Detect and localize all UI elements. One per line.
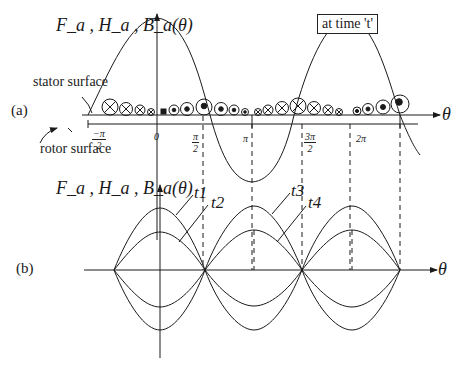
tick-3pi-half: 3π2 [304,131,316,154]
dot-conductor-icon [363,104,374,115]
curve-t3 [114,270,400,307]
theta-label-b: θ [438,259,447,280]
tick-zero: 0 [154,131,159,142]
time-box: at time 't' [317,14,378,34]
tick-2pi: 2π [356,133,366,144]
dot-conductor-icon [181,103,194,116]
cross-conductor-icon [276,102,289,115]
cross-conductor-icon [148,109,155,116]
curve-t4 [114,270,400,330]
panel-a [40,14,440,240]
mmf-curve-a [88,18,420,182]
dot-conductor-icon [215,103,228,116]
tick-pi: π [243,133,248,144]
label-t3: t3 [291,181,304,201]
cross-conductor-icon [255,109,262,116]
dot-conductor-icon [196,99,212,115]
cross-conductor-icon [263,105,273,115]
dot-conductor-icon [169,105,179,115]
panel-b-label: (b) [16,260,34,277]
cross-conductor-icon [336,109,343,116]
y-axis-label-b: F_a , H_a , B_a(θ) [56,178,193,199]
cross-conductor-icon [120,103,133,116]
conductors [102,95,409,116]
label-t4: t4 [308,193,321,213]
cross-conductor-icon [135,105,145,115]
tick-pi-half: π2 [192,131,199,154]
panel-b [84,185,437,358]
cross-conductor-icon [308,102,321,115]
dot-conductor-icon [376,100,390,114]
stator-surface-label: stator surface [33,74,108,90]
cross-conductor-icon [323,105,333,115]
label-t1: t1 [194,183,207,203]
tick-minus-pi-half: −π2 [92,128,106,151]
dot-conductor-icon [391,95,409,113]
panel-a-label: (a) [11,102,28,119]
cross-conductor-icon [102,99,118,115]
label-t2: t2 [211,193,224,213]
y-axis-label-a: F_a , H_a , B_a(θ) [56,15,193,36]
theta-label-a: θ [442,104,451,125]
dot-conductor-icon [353,107,361,115]
small-dot-conductor-icon [161,109,166,114]
dot-conductor-icon [242,109,249,116]
dot-conductor-icon [229,105,239,115]
